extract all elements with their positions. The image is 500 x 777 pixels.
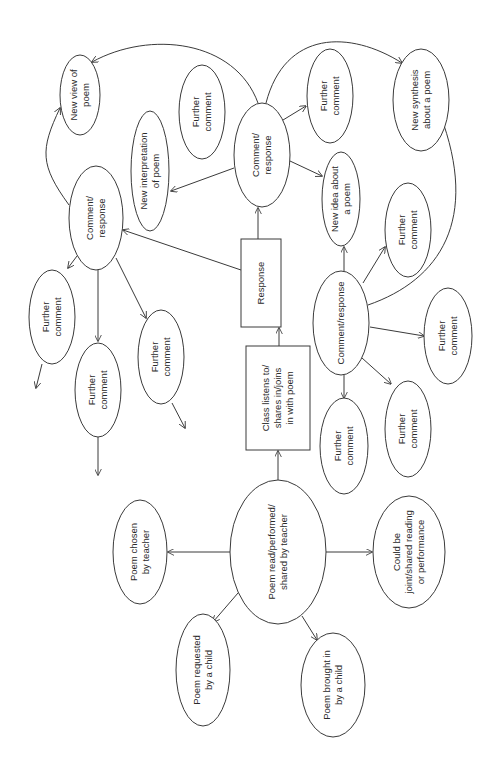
node-comment-right: Comment/response (313, 271, 369, 375)
label-poem-requested-1: Poem requested (191, 635, 202, 705)
edge-read-to-requested (213, 593, 238, 622)
node-further-left-1: Further comment (29, 270, 75, 364)
label-poem-brought-1: Poem brought in (321, 650, 332, 720)
label-further-2: comment (448, 316, 459, 355)
edge-top-to-new-view (92, 44, 258, 103)
label-interp-2: of poem (150, 154, 161, 188)
label-further-2: comment (202, 92, 213, 131)
node-poem-chosen: Poem chosen by teacher (113, 500, 167, 604)
edge-further-left-3-out (172, 403, 185, 428)
label-response: Response (255, 262, 266, 305)
edge-right-to-further-3 (362, 358, 391, 384)
label-new-view-1: New view of (68, 69, 79, 121)
node-further-right-1: Further comment (385, 183, 431, 277)
label-poem-requested-2: by a child (203, 650, 214, 690)
label-further-1: Further (318, 81, 329, 112)
node-new-synthesis: New synthesis about a poem (393, 49, 449, 151)
label-further-1: Further (332, 431, 343, 462)
poem-response-concept-map: Poem read/performed/ shared by teacher P… (0, 0, 500, 777)
edge-top-to-new-idea (290, 161, 322, 176)
edge-left-to-further-1 (68, 256, 77, 268)
label-poem-chosen-1: Poem chosen (128, 523, 139, 581)
label-joint-1: Could be (391, 533, 402, 571)
node-new-interpretation: New interpretation of poem (131, 111, 169, 231)
label-comment-right: Comment/response (335, 282, 346, 365)
label-joint-2: joint/shared reading (403, 510, 414, 594)
label-new-view-2: poem (80, 83, 91, 107)
edge-read-to-brought (302, 616, 317, 640)
edge-further-left-1-out (36, 364, 42, 388)
label-further-2: comment (408, 409, 419, 448)
label-poem-read-2: shared by teacher (278, 514, 289, 590)
label-further-2: comment (330, 76, 341, 115)
node-comment-top: Comment/ response (234, 103, 290, 207)
label-interp-1: New interpretation (138, 132, 149, 209)
node-class-listens: Class listens to/ shares in/joins in wit… (246, 346, 310, 450)
label-joint-3: or performance (415, 520, 426, 584)
node-response: Response (241, 239, 281, 327)
label-new-idea-1: New idea about (329, 166, 340, 232)
node-further-top-a: Further comment (179, 65, 225, 159)
label-further-2: comment (98, 370, 109, 409)
label-further-2: comment (344, 426, 355, 465)
node-new-view: New view of poem (60, 55, 100, 135)
node-could-be-joint: Could be joint/shared reading or perform… (373, 496, 445, 608)
label-further-1: Further (396, 414, 407, 445)
label-comment-left-2: response (96, 198, 107, 237)
node-further-right-3: Further comment (385, 381, 431, 477)
edge-right-to-further-2 (370, 327, 424, 336)
label-comment-left-1: Comment/ (84, 196, 95, 240)
node-further-right-4: Further comment (320, 398, 368, 494)
label-new-idea-2: a poem (341, 183, 352, 215)
label-further-2: comment (161, 337, 172, 376)
label-further-2: comment (52, 297, 63, 336)
node-poem-read: Poem read/performed/ shared by teacher (230, 480, 326, 624)
node-poem-requested: Poem requested by a child (176, 614, 230, 726)
label-poem-chosen-2: by teacher (140, 530, 151, 574)
node-comment-left: Comment/ response (69, 166, 123, 270)
node-further-right-2: Further comment (424, 288, 472, 384)
node-further-left-2: Further comment (75, 343, 121, 437)
label-class-3: in with poem (284, 371, 295, 424)
node-poem-brought: Poem brought in by a child (301, 633, 365, 737)
label-comment-top-1: Comment/ (250, 133, 261, 177)
label-synthesis-1: New synthesis (409, 69, 420, 130)
label-poem-brought-2: by a child (333, 665, 344, 705)
edge-left-to-further-3 (116, 258, 146, 318)
edge-top-to-interpretation (171, 168, 234, 191)
node-further-top-b: Further comment (307, 49, 353, 143)
label-further-1: Further (40, 302, 51, 333)
label-further-1: Further (149, 342, 160, 373)
label-further-1: Further (396, 215, 407, 246)
label-comment-top-2: response (262, 135, 273, 174)
label-further-1: Further (190, 97, 201, 128)
node-new-idea: New idea about a poem (322, 152, 360, 246)
label-further-1: Further (86, 375, 97, 406)
label-poem-read-1: Poem read/performed/ (266, 504, 277, 599)
label-synthesis-2: about a poem (421, 71, 432, 129)
label-class-1: Class listens to/ (260, 364, 271, 431)
label-class-2: shares in/joins (272, 367, 283, 428)
edge-response-to-comment-left (123, 230, 241, 270)
edge-right-to-further-1 (363, 247, 385, 283)
node-further-left-3: Further comment (138, 310, 184, 404)
label-further-2: comment (408, 210, 419, 249)
edge-top-to-further (283, 106, 306, 120)
label-further-1: Further (436, 321, 447, 352)
